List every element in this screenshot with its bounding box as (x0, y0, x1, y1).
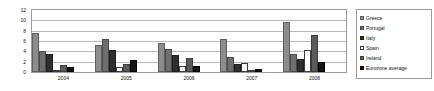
y-axis-tick-label: 2 (23, 59, 26, 64)
bar (297, 59, 304, 72)
x-axis: 20042005200620072008 (32, 75, 346, 87)
bar (46, 54, 53, 72)
legend-item-italy: Italy (360, 33, 429, 43)
bar (283, 22, 290, 72)
bar (318, 62, 325, 72)
bar-group-2006 (158, 10, 221, 72)
bar (95, 45, 102, 72)
legend-swatch-icon (360, 66, 364, 70)
bar (186, 58, 193, 72)
y-axis-tick-label: 6 (23, 39, 26, 44)
legend-label: Eurozone average (366, 65, 407, 71)
legend-label: Italy (366, 35, 375, 41)
legend-item-ireland: Ireland (360, 53, 429, 63)
y-axis-tick-label: 10 (20, 18, 26, 23)
bar-group-2008 (283, 10, 346, 72)
x-axis-tick-label: 2005 (95, 75, 158, 87)
bar (311, 35, 318, 72)
bar (123, 64, 130, 72)
x-axis-tick-label: 2007 (220, 75, 283, 87)
bar (165, 49, 172, 72)
legend-swatch-icon (360, 46, 364, 50)
legend-label: Spain (366, 45, 379, 51)
bar (53, 70, 60, 72)
bar-group-2005 (95, 10, 158, 72)
legend-swatch-icon (360, 36, 364, 40)
legend: GreecePortugalItalySpainIrelandEurozone … (356, 9, 432, 79)
bar (158, 43, 165, 72)
legend-label: Ireland (366, 55, 381, 61)
y-axis-tick-label: 4 (23, 49, 26, 54)
x-axis-tick-label: 2004 (32, 75, 95, 87)
legend-item-eurozone-average: Eurozone average (360, 63, 429, 73)
y-axis-tick-label: 12 (20, 8, 26, 13)
legend-label: Portugal (366, 25, 385, 31)
bar (179, 66, 186, 72)
bar (172, 55, 179, 72)
legend-swatch-icon (360, 56, 364, 60)
bar-group-2007 (220, 10, 283, 72)
legend-item-spain: Spain (360, 43, 429, 53)
bar-group-2004 (32, 10, 95, 72)
bar (241, 63, 248, 72)
bar (60, 65, 67, 72)
bar (102, 39, 109, 72)
bar-series-layer (32, 10, 346, 72)
bar (67, 67, 74, 72)
legend-swatch-icon (360, 26, 364, 30)
bar-chart: 024681012 20042005200620072008 GreecePor… (0, 0, 434, 91)
bar (220, 39, 227, 72)
y-axis-tick-label: 0 (23, 70, 26, 75)
bar (193, 66, 200, 72)
legend-swatch-icon (360, 16, 364, 20)
bar (255, 69, 262, 72)
legend-item-greece: Greece (360, 13, 429, 23)
bar (304, 50, 311, 72)
x-axis-tick-label: 2006 (158, 75, 221, 87)
x-axis-tick-label: 2008 (283, 75, 346, 87)
bar (116, 67, 123, 72)
y-axis: 024681012 (0, 9, 29, 73)
bar (32, 33, 39, 72)
legend-label: Greece (366, 15, 382, 21)
bar (109, 50, 116, 72)
y-axis-tick-label: 8 (23, 28, 26, 33)
bar (248, 70, 255, 72)
bar (39, 51, 46, 72)
bar (130, 60, 137, 72)
bar (227, 57, 234, 72)
bar (234, 64, 241, 72)
bar (290, 54, 297, 72)
legend-item-portugal: Portugal (360, 23, 429, 33)
